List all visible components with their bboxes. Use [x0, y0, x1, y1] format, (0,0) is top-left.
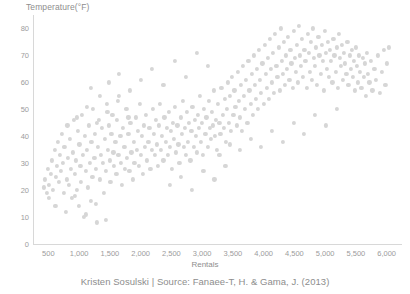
data-point [53, 148, 57, 152]
data-point [267, 96, 271, 100]
data-point [200, 121, 204, 125]
data-point [134, 115, 138, 119]
data-point [64, 177, 68, 181]
data-point [93, 131, 97, 135]
data-point [206, 64, 210, 68]
x-tick-label: 2,500 [162, 249, 181, 258]
data-point [71, 150, 75, 154]
data-point [103, 137, 107, 141]
x-tick-label: 3,000 [193, 249, 212, 258]
data-point [66, 156, 70, 160]
data-point [145, 158, 149, 162]
data-point [336, 86, 340, 90]
y-tick-label: 80 [21, 24, 29, 33]
data-point [324, 51, 328, 55]
data-point [204, 115, 208, 119]
data-point [94, 166, 98, 170]
data-point [342, 51, 346, 55]
data-point [280, 59, 284, 63]
data-point [274, 64, 278, 68]
data-point [150, 67, 154, 71]
data-point [233, 105, 237, 109]
y-tick-label: 20 [21, 186, 29, 195]
data-point [148, 166, 152, 170]
data-point [387, 45, 391, 49]
data-point [228, 94, 232, 98]
data-point [278, 88, 282, 92]
data-point [73, 193, 77, 197]
data-point [253, 83, 257, 87]
data-point [44, 191, 48, 195]
data-point [184, 75, 188, 79]
data-point [370, 88, 374, 92]
data-point [174, 150, 178, 154]
data-point [260, 61, 264, 65]
data-point [354, 45, 358, 49]
data-point [179, 115, 183, 119]
x-tick-label: 1,000 [70, 249, 89, 258]
data-point [327, 75, 331, 79]
y-tick-label: 40 [21, 132, 29, 141]
data-point [143, 145, 147, 149]
data-point [92, 156, 96, 160]
data-point [241, 64, 245, 68]
data-point [335, 45, 339, 49]
data-point [238, 115, 242, 119]
data-point [351, 75, 355, 79]
data-point [177, 161, 181, 165]
data-point [223, 164, 227, 168]
data-point [85, 148, 89, 152]
data-point [250, 72, 254, 76]
data-point [62, 191, 66, 195]
data-point [220, 113, 224, 117]
y-axis-title: Temperature(°F) [26, 2, 89, 12]
y-tick-label: 70 [21, 51, 29, 60]
data-point [111, 150, 115, 154]
data-point [142, 123, 146, 127]
data-point [288, 48, 292, 52]
data-point [363, 61, 367, 65]
data-point [262, 43, 266, 47]
data-point [114, 172, 118, 176]
data-point [49, 172, 53, 176]
data-point [98, 177, 102, 181]
data-point [245, 121, 249, 125]
data-point [323, 29, 327, 33]
data-point [329, 59, 333, 63]
data-point [151, 107, 155, 111]
data-point [50, 158, 54, 162]
data-point [201, 169, 205, 173]
data-point [136, 129, 140, 133]
data-point [243, 107, 247, 111]
data-point [313, 64, 317, 68]
data-point [175, 123, 179, 127]
data-point [285, 67, 289, 71]
data-point [206, 99, 210, 103]
data-point [372, 67, 376, 71]
data-point [270, 80, 274, 84]
data-point [138, 102, 142, 106]
data-point [135, 148, 139, 152]
data-point [376, 53, 380, 57]
data-point [43, 177, 47, 181]
data-point [73, 172, 77, 176]
data-point [223, 96, 227, 100]
data-point [307, 51, 311, 55]
data-point [211, 123, 215, 127]
data-point [268, 37, 272, 41]
data-point [87, 161, 91, 165]
data-point [161, 83, 165, 87]
data-point [355, 64, 359, 68]
data-point [181, 99, 185, 103]
data-point [201, 153, 205, 157]
data-point [340, 43, 344, 47]
data-point [226, 80, 230, 84]
data-point [242, 94, 246, 98]
data-point [190, 105, 194, 109]
data-point [105, 110, 109, 114]
data-point [68, 137, 72, 141]
data-point [303, 59, 307, 63]
data-point [292, 29, 296, 33]
data-point [84, 169, 88, 173]
data-point [202, 107, 206, 111]
